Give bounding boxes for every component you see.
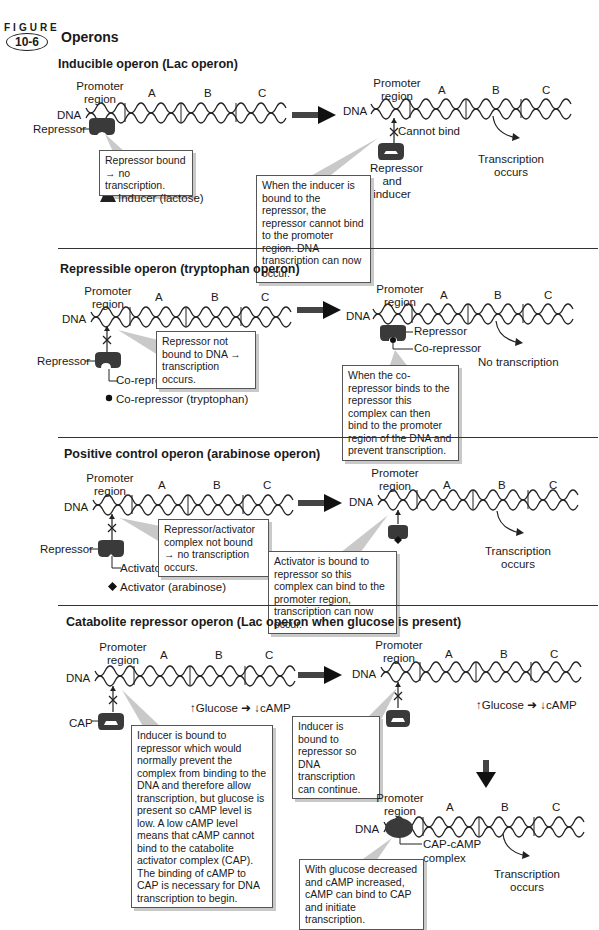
section-title-inducible: Inducible operon (Lac operon) (58, 57, 238, 71)
gene-c-label: C (550, 648, 558, 661)
gene-a-label: A (158, 479, 166, 492)
section-divider (58, 605, 598, 606)
activator-repressor-complex-icon (387, 510, 417, 550)
transition-arrow-icon (298, 665, 346, 685)
gene-b-label: B (494, 289, 502, 302)
promoter-label: Promoterregion (93, 641, 153, 667)
callout-complex-not-bound: Repressor/activator complex not bound → … (158, 519, 269, 577)
callout-glucose-present: Inducer is bound to repressor which woul… (131, 725, 273, 908)
gene-c-label: C (552, 801, 560, 814)
gene-b-label: B (501, 801, 509, 814)
gene-a-label: A (438, 84, 446, 97)
gene-c-label: C (261, 291, 269, 304)
gene-c-label: C (542, 84, 550, 97)
dna-helix-icon (93, 500, 293, 514)
gene-c-label: C (265, 649, 273, 662)
dna-helix-icon (373, 309, 573, 323)
gene-b-label: B (492, 84, 500, 97)
repressor-label: Repressor (414, 325, 467, 338)
dna-label: DNA (64, 501, 88, 514)
glucose-camp-note: ↑Glucose ➜ ↓cAMP (190, 702, 291, 715)
callout-repressor-bound: Repressor bound → no transcription. (99, 150, 193, 196)
promoter-label: Promoterregion (369, 639, 429, 665)
co-repressor-legend: Co-repressor (tryptophan) (116, 393, 248, 406)
dna-helix-icon (381, 667, 581, 681)
dna-helix-icon (91, 312, 291, 326)
gene-a-label: A (446, 801, 454, 814)
promoter-label: Promoterregion (365, 467, 425, 493)
promoter-label: Promoterregion (70, 80, 130, 106)
gene-a-label: A (148, 87, 156, 100)
dna-label: DNA (349, 496, 373, 509)
gene-c-label: C (544, 289, 552, 302)
dna-helix-icon (95, 671, 295, 685)
gene-b-label: B (498, 479, 506, 492)
transcription-outcome: Transcriptionoccurs (476, 153, 546, 179)
gene-b-label: B (211, 291, 219, 304)
cap-camp-complex-label: CAP-cAMPcomplex (423, 837, 481, 865)
transcription-arrow-icon (503, 834, 533, 864)
cap-label: CAP (69, 717, 93, 730)
gene-a-label: A (445, 648, 453, 661)
dna-label: DNA (343, 105, 367, 118)
dna-label: DNA (62, 313, 86, 326)
callout-cap-camp-initiate: With glucose decreased and cAMP increase… (299, 859, 424, 930)
gene-b-label: B (204, 87, 212, 100)
transcription-arrow-icon (497, 511, 527, 541)
figure-title: Operons (61, 29, 119, 45)
cannot-bind-label: Cannot bind (398, 125, 460, 138)
inducer-icon (98, 195, 118, 203)
callout-inducer-bound-continue: Inducer is bound to repressor so DNA tra… (292, 716, 380, 799)
transition-arrow-icon (292, 109, 340, 129)
dna-helix-icon (378, 495, 578, 509)
gene-b-label: B (500, 648, 508, 661)
section-divider (58, 248, 598, 249)
glucose-camp-note: ↑Glucose ➜ ↓cAMP (476, 699, 577, 712)
section-title-repressible: Repressible operon (tryptophan operon) (60, 262, 300, 276)
transition-arrow-icon (297, 300, 345, 320)
activator-legend: Activator (arabinose) (120, 581, 226, 594)
dna-label: DNA (66, 672, 90, 685)
repressor-label: Repressor (40, 543, 93, 556)
transcription-outcome: Transcriptionoccurs (483, 545, 553, 571)
gene-a-label: A (160, 649, 168, 662)
promoter-label: Promoterregion (367, 77, 427, 103)
transcription-outcome: Transcriptionoccurs (491, 868, 563, 894)
down-arrow-icon (474, 760, 498, 790)
gene-c-label: C (258, 87, 266, 100)
dna-label: DNA (346, 310, 370, 323)
section-divider (58, 437, 598, 438)
repressor-label: Repressor (33, 123, 86, 136)
section-title-catabolite: Catabolite repressor operon (Lac operon … (66, 615, 461, 629)
callout-pointer-icon (330, 515, 390, 555)
dna-label: DNA (355, 823, 379, 836)
gene-a-label: A (443, 479, 451, 492)
promoter-label: Promoterregion (370, 283, 430, 309)
repressor-label: Repressor (37, 355, 90, 368)
gene-b-label: B (213, 479, 221, 492)
figure-label: FIGURE (4, 22, 60, 33)
inducer-legend: Inducer (lactose) (118, 192, 204, 205)
gene-b-label: B (215, 649, 223, 662)
callout-repressor-not-bound: Repressor not bound to DNA → transcripti… (156, 331, 256, 389)
dna-helix-icon (371, 104, 571, 118)
repressor-inducer-complex-icon (378, 143, 406, 161)
co-repressor-label: Co-repressor (414, 342, 481, 355)
transition-arrow-icon (298, 493, 346, 513)
section-title-positive-control: Positive control operon (arabinose opero… (64, 447, 320, 461)
dna-label: DNA (352, 668, 376, 681)
no-transcription-outcome: No transcription (478, 356, 559, 369)
gene-a-label: A (440, 289, 448, 302)
callout-co-repressor-binds: When the co-repressor binds to the repre… (342, 365, 459, 461)
activator-icon (108, 582, 118, 592)
figure-number-badge: 10-6 (6, 33, 48, 51)
callout-pointer-icon (122, 690, 172, 730)
no-transcription-arrow-icon (496, 321, 526, 351)
co-repressor-icon (105, 394, 115, 404)
transcription-arrow-icon (493, 116, 523, 146)
blocked-binding-icon (108, 686, 118, 716)
gene-a-label: A (155, 291, 163, 304)
gene-c-label: C (263, 479, 271, 492)
promoter-label: Promoterregion (80, 472, 140, 498)
dna-label: DNA (57, 109, 81, 122)
